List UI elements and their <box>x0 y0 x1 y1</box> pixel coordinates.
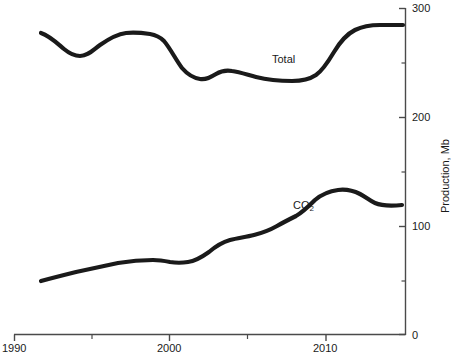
co2-label-subscript: 2 <box>310 204 314 213</box>
x-tick-label-2000: 2000 <box>157 343 181 354</box>
y-axis-title: Production, Mb <box>440 139 451 213</box>
x-tick-label-2010: 2010 <box>313 343 337 354</box>
series-line-co2 <box>41 190 402 281</box>
y-tick-label-200: 200 <box>412 112 430 123</box>
chart-plot-area <box>0 0 451 360</box>
x-axis <box>14 335 406 342</box>
chart-container: 1990 2000 2010 300 200 100 0 Production,… <box>0 0 451 360</box>
y-tick-label-0: 0 <box>412 330 418 341</box>
x-tick-label-1990: 1990 <box>2 343 26 354</box>
co2-label-main: CO <box>293 199 310 211</box>
y-axis <box>399 8 406 335</box>
y-tick-label-100: 100 <box>412 221 430 232</box>
series-line-total <box>41 25 403 81</box>
series-label-co2: CO2 <box>293 200 314 211</box>
series-label-total: Total <box>272 54 295 65</box>
y-tick-label-300: 300 <box>412 3 430 14</box>
